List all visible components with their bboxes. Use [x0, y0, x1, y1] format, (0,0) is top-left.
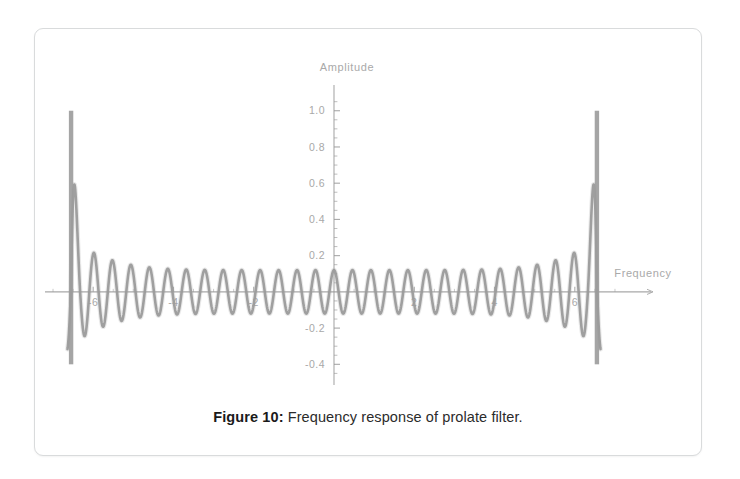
- right-band-edge-spike: [595, 111, 599, 365]
- figure-caption-text: Frequency response of prolate filter.: [288, 409, 523, 425]
- y-tick-label: -0.2: [305, 322, 325, 334]
- y-tick-label: 0.6: [309, 177, 325, 189]
- figure-caption: Figure 10: Frequency response of prolate…: [35, 409, 701, 425]
- frequency-response-chart: Amplitude Frequency 1.00.80.60.40.2-0.2-…: [35, 29, 703, 401]
- y-tick-label: 0.8: [309, 141, 325, 153]
- left-band-edge-spike: [69, 111, 73, 365]
- y-tick-label: 1.0: [309, 104, 325, 116]
- figure-caption-label: Figure 10:: [213, 409, 283, 425]
- x-axis-title: Frequency: [614, 267, 671, 279]
- y-axis-title: Amplitude: [320, 61, 374, 73]
- chart-axes: [45, 85, 653, 385]
- figure-card: Amplitude Frequency 1.00.80.60.40.2-0.2-…: [34, 28, 702, 456]
- y-tick-label: -0.4: [305, 358, 325, 370]
- chart-tick-labels: 1.00.80.60.40.2-0.2-0.4-6-4-2246: [88, 104, 578, 370]
- chart-plot-area: Amplitude Frequency 1.00.80.60.40.2-0.2-…: [35, 29, 703, 401]
- y-tick-label: 0.4: [309, 213, 325, 225]
- y-tick-label: 0.2: [309, 249, 325, 261]
